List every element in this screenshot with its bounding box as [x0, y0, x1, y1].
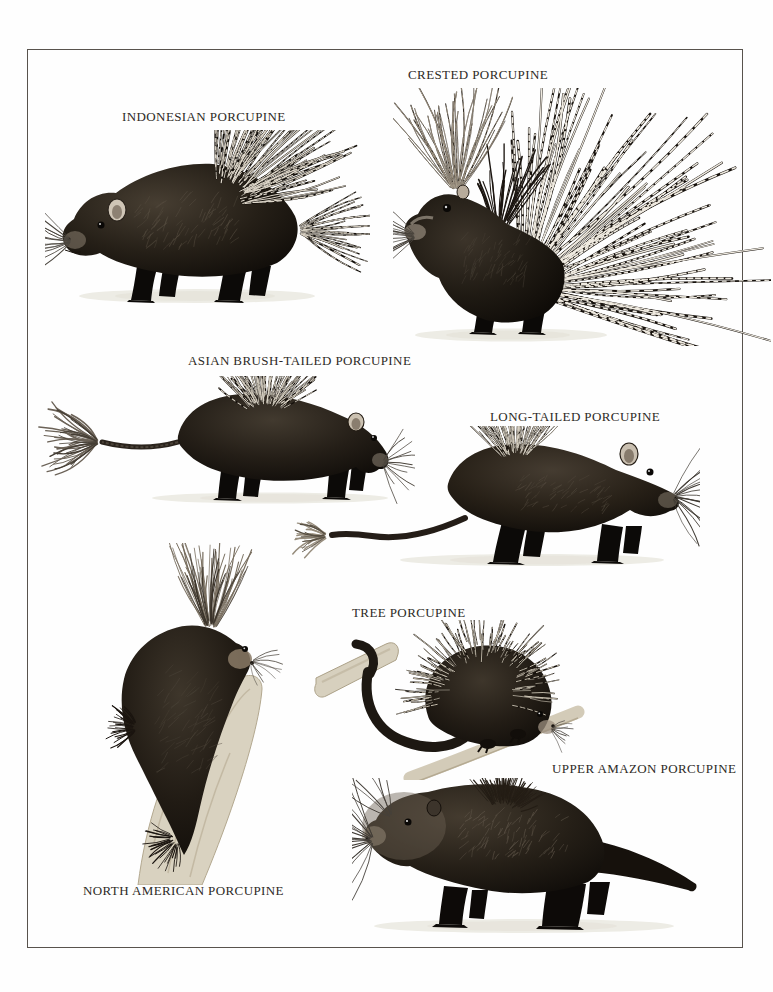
plate-page: INDONESIAN PORCUPINE CRESTED PORCUPINE A…	[0, 0, 773, 992]
label-upper-amazon-porcupine: UPPER AMAZON PORCUPINE	[552, 761, 736, 777]
plate-border-frame	[27, 49, 743, 948]
label-north-american-porcupine: NORTH AMERICAN PORCUPINE	[83, 883, 284, 899]
label-crested-porcupine: CRESTED PORCUPINE	[408, 67, 548, 83]
label-indonesian-porcupine: INDONESIAN PORCUPINE	[122, 109, 286, 125]
label-asian-brush-tailed-porcupine: ASIAN BRUSH-TAILED PORCUPINE	[188, 353, 411, 369]
label-tree-porcupine: TREE PORCUPINE	[352, 605, 466, 621]
label-long-tailed-porcupine: LONG-TAILED PORCUPINE	[490, 409, 660, 425]
